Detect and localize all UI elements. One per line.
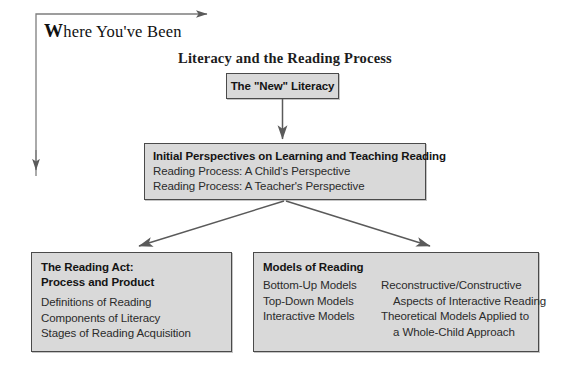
- list-item: Theoretical Models Applied to: [381, 309, 546, 325]
- section-title: Literacy and the Reading Process: [0, 50, 570, 67]
- box-new-literacy: The "New" Literacy: [226, 73, 339, 99]
- box-reading-act-title-line1: The Reading Act:: [41, 260, 222, 275]
- list-item: Interactive Models: [263, 309, 381, 325]
- list-item: Reconstructive/Constructive: [381, 278, 546, 294]
- connector-initial-to-models: [286, 201, 430, 246]
- box-reading-act: The Reading Act: Process and Product Def…: [31, 252, 232, 352]
- list-item: Components of Literacy: [41, 311, 222, 327]
- list-item: Aspects of Interactive Reading: [381, 294, 546, 310]
- box-models-of-reading-title: Models of Reading: [263, 260, 529, 275]
- list-item: Bottom-Up Models: [263, 278, 381, 294]
- connector-initial-to-reading-act: [139, 201, 284, 246]
- models-right-column: Reconstructive/Constructive Aspects of I…: [381, 278, 546, 340]
- box-reading-act-title-line2: Process and Product: [41, 275, 222, 290]
- list-item: Reading Process: A Teacher's Perspective: [153, 179, 417, 194]
- box-reading-act-list: Definitions of Reading Components of Lit…: [41, 295, 222, 342]
- list-item: Reading Process: A Child's Perspective: [153, 164, 417, 179]
- where-youve-been-label: Where You've Been: [44, 20, 182, 42]
- box-initial-perspectives-title: Initial Perspectives on Learning and Tea…: [153, 149, 417, 163]
- box-initial-perspectives: Initial Perspectives on Learning and Tea…: [144, 143, 426, 200]
- box-models-of-reading-content: Models of Reading Bottom-Up Models Top-D…: [254, 253, 538, 347]
- box-new-literacy-title: The "New" Literacy: [231, 79, 335, 93]
- list-item: Definitions of Reading: [41, 295, 222, 311]
- where-label-initial: W: [44, 20, 63, 41]
- list-item: Top-Down Models: [263, 294, 381, 310]
- box-models-of-reading: Models of Reading Bottom-Up Models Top-D…: [253, 252, 539, 352]
- list-item: Stages of Reading Acquisition: [41, 326, 222, 342]
- box-models-of-reading-columns: Bottom-Up Models Top-Down Models Interac…: [263, 278, 529, 340]
- box-reading-act-content: The Reading Act: Process and Product Def…: [32, 253, 231, 349]
- list-item: a Whole-Child Approach: [381, 325, 546, 341]
- diagram-canvas: Where You've Been Literacy and the Readi…: [0, 0, 570, 372]
- where-label-text: here You've Been: [63, 22, 181, 41]
- box-initial-perspectives-content: Initial Perspectives on Learning and Tea…: [145, 144, 425, 198]
- box-new-literacy-content: The "New" Literacy: [227, 74, 338, 98]
- models-left-column: Bottom-Up Models Top-Down Models Interac…: [263, 278, 381, 340]
